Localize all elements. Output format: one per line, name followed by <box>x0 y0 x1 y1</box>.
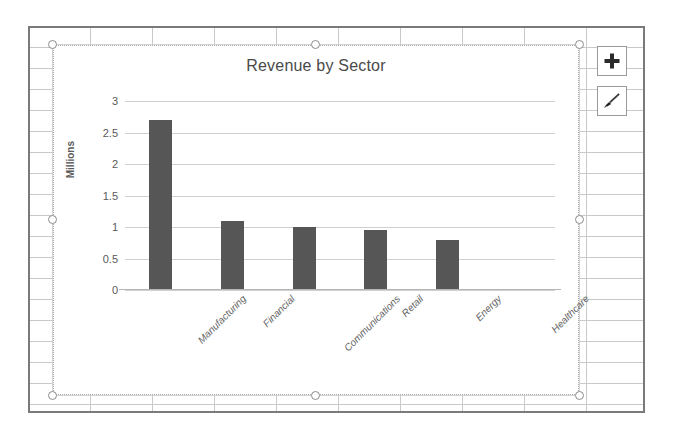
bar-slot <box>483 101 555 290</box>
handle-top-right[interactable] <box>575 40 584 49</box>
worksheet-frame-top <box>28 26 645 28</box>
chart-elements-button[interactable] <box>597 46 627 76</box>
x-axis-label-manufacturing: Manufacturing <box>195 293 248 346</box>
bar-financial[interactable] <box>221 221 244 290</box>
bar-slot <box>268 101 340 290</box>
x-axis-label-retail: Retail <box>399 293 425 319</box>
bar-manufacturing[interactable] <box>149 120 172 290</box>
plus-icon <box>603 52 621 70</box>
paintbrush-icon <box>602 91 622 111</box>
handle-middle-left[interactable] <box>48 215 57 224</box>
y-axis-tick-label: 2 <box>112 158 118 170</box>
chart-styles-button[interactable] <box>597 86 627 116</box>
bar-series[interactable] <box>125 101 555 290</box>
handle-bottom-right[interactable] <box>575 391 584 400</box>
y-axis-tick-label: 0 <box>112 284 118 296</box>
y-axis-tick-label: 1 <box>112 221 118 233</box>
worksheet-frame-left <box>28 26 30 413</box>
x-axis-label-communications: Communications <box>342 293 402 353</box>
bar-retail[interactable] <box>364 230 387 290</box>
bar-communications[interactable] <box>293 227 316 290</box>
handle-top-left[interactable] <box>48 40 57 49</box>
chart-object[interactable]: Revenue by Sector Millions 00.511.522.53… <box>52 44 580 396</box>
axis-baseline <box>119 289 561 290</box>
worksheet-frame-right <box>643 26 645 413</box>
chart-title[interactable]: Revenue by Sector <box>53 57 579 75</box>
bar-slot <box>125 101 197 290</box>
chart-side-buttons <box>597 46 629 126</box>
y-axis-tick-label: 0.5 <box>103 253 118 265</box>
y-axis-tick-label: 2.5 <box>103 127 118 139</box>
x-axis-label-financial: Financial <box>260 293 296 329</box>
bar-slot <box>412 101 484 290</box>
handle-bottom-center[interactable] <box>311 391 320 400</box>
y-axis-title[interactable]: Millions <box>65 141 79 178</box>
y-axis-tick-label: 1.5 <box>103 190 118 202</box>
x-axis-category-labels[interactable]: ManufacturingFinancialCommunicationsReta… <box>125 293 555 378</box>
y-axis-tick-label: 3 <box>112 95 118 107</box>
bar-slot <box>340 101 412 290</box>
handle-top-center[interactable] <box>311 40 320 49</box>
worksheet-frame-bottom <box>28 411 645 413</box>
handle-middle-right[interactable] <box>575 215 584 224</box>
plot-area[interactable]: 00.511.522.53 <box>125 101 555 290</box>
gridline <box>125 290 555 291</box>
x-axis-label-energy: Energy <box>473 293 503 323</box>
bar-slot <box>197 101 269 290</box>
bar-energy[interactable] <box>436 240 459 290</box>
handle-bottom-left[interactable] <box>48 391 57 400</box>
